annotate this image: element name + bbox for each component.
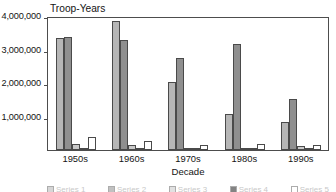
bar xyxy=(281,122,289,150)
bar xyxy=(64,37,72,150)
x-axis-tick-label: 1980s xyxy=(216,153,272,164)
bar xyxy=(88,137,96,150)
y-axis-tick-mark xyxy=(44,119,48,120)
y-axis-tick-label: 2,000,000 xyxy=(0,79,44,88)
plot-area xyxy=(47,17,329,151)
y-axis-tick-mark xyxy=(44,85,48,86)
bar xyxy=(112,21,120,150)
bar xyxy=(72,144,80,150)
bar xyxy=(128,145,136,150)
bar xyxy=(184,148,192,150)
bar-group xyxy=(217,18,273,150)
bar xyxy=(257,144,265,150)
y-axis-tick-label: 3,000,000 xyxy=(0,46,44,55)
chart-figure: 1,000,0002,000,0003,000,0004,000,000 Tro… xyxy=(0,0,336,192)
y-axis-tick-label: 4,000,000 xyxy=(0,12,44,21)
bar xyxy=(168,82,176,150)
legend-label: Series 3 xyxy=(178,186,207,192)
chart-legend: Series 1Series 2Series 3Series 4Series 5 xyxy=(47,186,329,192)
bar-group xyxy=(104,18,160,150)
x-axis-title: Decade xyxy=(47,166,329,177)
bar xyxy=(136,148,144,150)
bar-group xyxy=(48,18,104,150)
legend-swatch-icon xyxy=(291,186,298,192)
legend-swatch-icon xyxy=(47,186,54,192)
bar xyxy=(56,38,64,150)
bar xyxy=(233,44,241,150)
chart-title: Troop-Years xyxy=(50,3,105,15)
y-axis-tick-labels: 1,000,0002,000,0003,000,0004,000,000 xyxy=(0,0,44,192)
legend-swatch-icon xyxy=(169,186,176,192)
bar xyxy=(225,114,233,150)
legend-label: Series 5 xyxy=(300,186,329,192)
legend-item[interactable]: Series 4 xyxy=(230,186,268,192)
x-axis-tick-labels: 1950s1960s1970s1980s1990s xyxy=(47,153,329,167)
legend-item[interactable]: Series 5 xyxy=(291,186,329,192)
bar xyxy=(313,145,321,150)
y-axis-tick-mark xyxy=(44,18,48,19)
x-axis-tick-label: 1970s xyxy=(160,153,216,164)
legend-swatch-icon xyxy=(108,186,115,192)
legend-label: Series 1 xyxy=(56,186,85,192)
bar xyxy=(120,40,128,150)
bar xyxy=(144,141,152,150)
x-axis-tick-label: 1990s xyxy=(273,153,329,164)
bar xyxy=(200,145,208,150)
x-axis-tick-label: 1950s xyxy=(47,153,103,164)
legend-item[interactable]: Series 1 xyxy=(47,186,85,192)
y-axis-tick-label: 1,000,000 xyxy=(0,113,44,122)
bar xyxy=(289,99,297,150)
legend-item[interactable]: Series 3 xyxy=(169,186,207,192)
x-axis-tick-label: 1960s xyxy=(103,153,159,164)
bar xyxy=(192,148,200,150)
legend-swatch-icon xyxy=(230,186,237,192)
bar xyxy=(249,148,257,150)
bar xyxy=(305,148,313,150)
bars-layer xyxy=(48,18,328,150)
bar xyxy=(80,148,88,150)
bar-group xyxy=(161,18,217,150)
legend-label: Series 2 xyxy=(117,186,146,192)
bar xyxy=(176,58,184,150)
legend-item[interactable]: Series 2 xyxy=(108,186,146,192)
bar xyxy=(297,146,305,150)
y-axis-tick-mark xyxy=(44,52,48,53)
bar-group xyxy=(274,18,330,150)
legend-label: Series 4 xyxy=(239,186,268,192)
bar xyxy=(241,148,249,150)
